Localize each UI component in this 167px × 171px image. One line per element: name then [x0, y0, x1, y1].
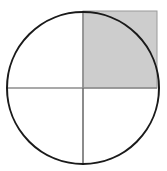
figure-container: Circle with shaded upper-right quadrant …	[0, 0, 167, 171]
geometric-figure: Circle with shaded upper-right quadrant …	[0, 0, 167, 171]
